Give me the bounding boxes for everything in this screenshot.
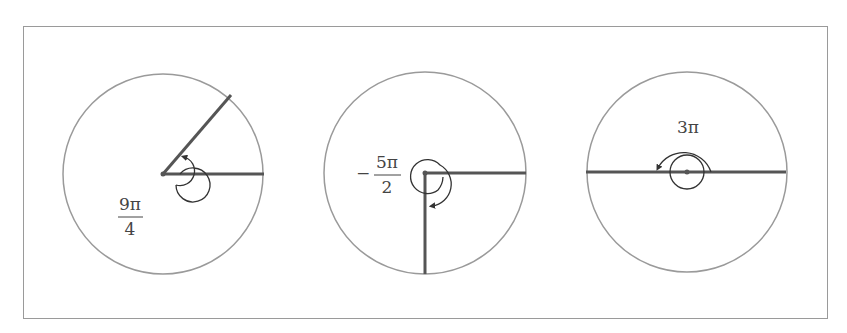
center-point xyxy=(685,170,690,175)
angle-label: 3π xyxy=(677,117,699,137)
terminal-side-ray xyxy=(163,95,231,174)
rotation-arrow-icon xyxy=(411,160,452,206)
angle-label-numerator: 9π xyxy=(119,194,141,214)
angle-label-sign: − xyxy=(356,163,370,183)
panel-angle-3pi: 3π xyxy=(586,72,787,272)
angle-label-denominator: 2 xyxy=(382,177,393,197)
panel-angle-neg-5pi-over-2: − 5π 2 xyxy=(324,72,526,274)
angle-label-denominator: 4 xyxy=(125,219,136,239)
angle-label-numerator: 5π xyxy=(376,152,398,172)
center-point xyxy=(161,172,166,177)
angle-diagram-canvas: 9π 4 − 5π 2 3π xyxy=(0,0,847,333)
panel-angle-9pi-over-4: 9π 4 xyxy=(63,74,264,274)
rotation-arrow-icon xyxy=(176,157,210,202)
center-point xyxy=(423,171,428,176)
